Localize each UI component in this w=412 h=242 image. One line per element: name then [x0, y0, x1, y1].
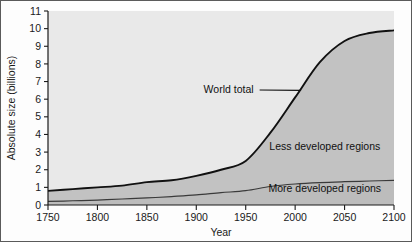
y-axis-tick-label: 7 [35, 75, 41, 87]
x-axis-tick-label: 1900 [185, 211, 209, 223]
x-axis-tick-label: 1950 [234, 211, 258, 223]
y-axis-tick-label: 4 [35, 128, 41, 140]
series-label-less-developed-regions: Less developed regions [269, 140, 380, 152]
x-axis: 17501800185019001950200020502100 [36, 205, 406, 223]
y-axis-tick-label: 5 [35, 110, 41, 122]
x-axis-title: Year [210, 226, 232, 238]
y-axis-title: Absolute size (billions) [5, 56, 17, 160]
y-axis-tick-label: 1 [35, 181, 41, 193]
y-axis-tick-label: 3 [35, 146, 41, 158]
x-axis-tick-label: 1850 [135, 211, 159, 223]
y-axis-tick-label: 6 [35, 93, 41, 105]
y-axis-tick-label: 10 [29, 22, 41, 34]
series-label-more-developed-regions: More developed regions [268, 182, 381, 194]
population-projection-chart: 01234567891011 1750180018501900195020002… [0, 0, 412, 242]
y-axis-tick-label: 9 [35, 40, 41, 52]
x-axis-tick-label: 1800 [86, 211, 110, 223]
x-axis-tick-label: 1750 [36, 211, 60, 223]
y-axis-tick-label: 0 [35, 199, 41, 211]
x-axis-tick-label: 2000 [283, 211, 307, 223]
y-axis-tick-label: 2 [35, 163, 41, 175]
y-axis-tick-label: 11 [30, 5, 41, 17]
x-axis-tick-label: 2100 [382, 211, 406, 223]
chart-canvas: 01234567891011 1750180018501900195020002… [1, 1, 412, 242]
y-axis: 01234567891011 [29, 5, 48, 211]
y-axis-tick-label: 8 [35, 58, 41, 70]
annotation-label-world-total: World total [204, 83, 254, 95]
x-axis-tick-label: 2050 [333, 211, 357, 223]
